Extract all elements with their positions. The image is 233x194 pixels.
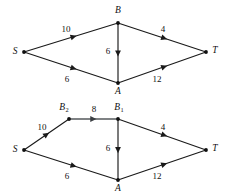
arrowhead-S-B2: [42, 133, 49, 139]
vertex-label-A: A: [114, 86, 121, 96]
vertex-label-S: S: [13, 144, 18, 154]
arrowhead-A-T: [160, 162, 167, 167]
arrowhead-B-A: [115, 50, 121, 56]
arrowhead-S-A: [70, 65, 77, 71]
vertex-label-B: B: [115, 5, 121, 15]
top-edges: [24, 23, 206, 83]
edge-capacity-label-A-T: 12: [153, 171, 162, 181]
edge-capacity-label-S-A: 6: [65, 171, 70, 181]
edge-capacity-label-A-T: 12: [153, 74, 162, 84]
edge-capacity-label-B1-A: 6: [106, 143, 111, 153]
arrowhead-B-T: [160, 35, 167, 41]
edge-capacity-label-B-T: 4: [161, 24, 166, 34]
vertex-dot-T: [204, 50, 208, 54]
vertex-dot-B: [116, 21, 120, 25]
vertex-label-T: T: [212, 45, 218, 55]
top-network-diagram: 1066412 SBAT: [0, 0, 233, 97]
vertex-subscript-B1: 1: [121, 106, 124, 113]
vertex-label-B1: B1: [114, 102, 123, 113]
arrowhead-A-T: [160, 65, 167, 70]
arrowhead-B1-T: [160, 132, 167, 137]
vertex-label-B2: B2: [59, 102, 68, 113]
arrowhead-S-A: [70, 162, 77, 168]
top-vertices: [22, 21, 208, 85]
bottom-edge-labels: 10866412: [38, 104, 166, 181]
edge-capacity-label-S-B: 10: [62, 24, 72, 34]
vertex-dot-B1: [116, 117, 120, 121]
edge-capacity-label-B-A: 6: [106, 46, 111, 56]
edge-capacity-label-B1-T: 4: [161, 122, 166, 132]
arrowhead-B1-A: [115, 147, 121, 153]
vertex-subscript-B2: 2: [66, 106, 69, 113]
vertex-dot-S: [22, 148, 26, 152]
bottom-edges: [24, 119, 206, 180]
vertex-dot-A: [116, 178, 120, 182]
arrowhead-S-B: [70, 35, 77, 41]
vertex-dot-A: [116, 81, 120, 85]
vertex-label-A: A: [114, 183, 121, 193]
vertex-label-S: S: [13, 46, 18, 56]
edge-capacity-label-S-B2: 10: [38, 122, 48, 132]
figure-root: 1066412 SBAT 10866412 SB2B1AT: [0, 0, 233, 194]
edge-capacity-label-B2-B1: 8: [92, 104, 97, 114]
bottom-vertices: [22, 117, 208, 182]
vertex-dot-B2: [67, 117, 71, 121]
edge-capacity-label-S-A: 6: [65, 74, 70, 84]
arrowhead-B2-B1: [90, 116, 96, 122]
bottom-network-diagram: 10866412 SB2B1AT: [0, 97, 233, 194]
vertex-label-T: T: [212, 143, 218, 153]
vertex-dot-S: [22, 50, 26, 54]
vertex-dot-T: [204, 148, 208, 152]
